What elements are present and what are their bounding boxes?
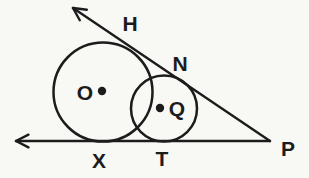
- label-P: P: [281, 137, 295, 160]
- label-Q: Q: [169, 97, 185, 120]
- label-H: H: [122, 12, 137, 35]
- label-T: T: [156, 147, 169, 170]
- diagram-svg: HNOQXTP: [0, 0, 309, 178]
- center-dot-O: [98, 87, 106, 95]
- geometry-diagram: HNOQXTP: [0, 0, 309, 178]
- label-O: O: [77, 81, 93, 104]
- center-dot-Q: [156, 104, 164, 112]
- label-X: X: [92, 149, 106, 172]
- label-N: N: [172, 52, 187, 75]
